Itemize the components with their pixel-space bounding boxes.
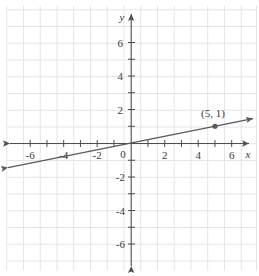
- chart-background: [0, 0, 259, 276]
- y-tick-label-2: 2: [118, 104, 124, 116]
- x-tick-label-neg2: -2: [93, 149, 102, 161]
- x-tick-label-neg4: -4: [59, 149, 69, 161]
- coordinate-graph-figure: -6 -4 -2 2 4 6 0 6 4 2 -2 -4 -6 y x (5, …: [0, 0, 259, 276]
- x-axis-label: x: [245, 148, 251, 160]
- x-tick-label-neg6: -6: [26, 149, 36, 161]
- y-tick-label-neg6: -6: [116, 238, 126, 250]
- x-tick-label-4: 4: [195, 149, 201, 161]
- y-tick-label-neg4: -4: [116, 205, 126, 217]
- y-tick-label-6: 6: [118, 37, 124, 49]
- data-point-5-1: [212, 124, 217, 129]
- x-tick-label-2: 2: [162, 149, 168, 161]
- origin-label: 0: [120, 148, 126, 160]
- y-tick-label-neg2: -2: [116, 171, 125, 183]
- x-tick-label-6: 6: [229, 149, 235, 161]
- point-annotation-label: (5, 1): [201, 107, 225, 120]
- coordinate-plane-svg: -6 -4 -2 2 4 6 0 6 4 2 -2 -4 -6 y x (5, …: [0, 0, 259, 276]
- y-axis-label: y: [119, 11, 125, 23]
- y-tick-label-4: 4: [118, 70, 124, 82]
